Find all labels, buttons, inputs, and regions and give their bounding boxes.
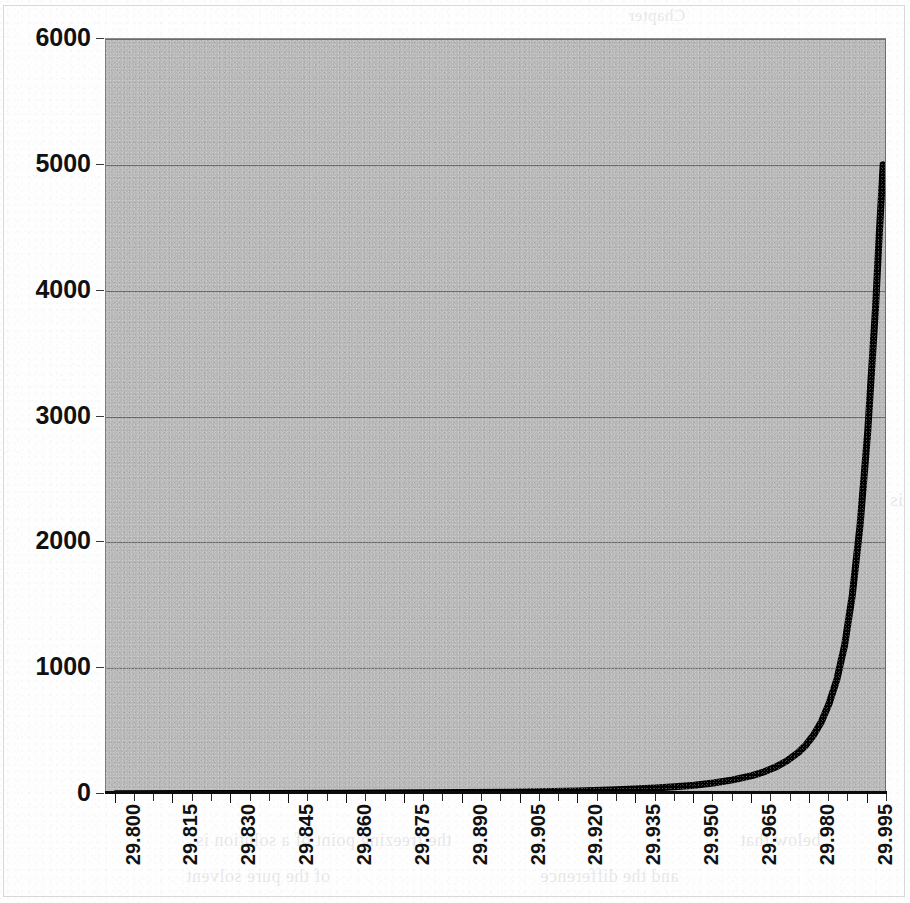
y-axis-tick (96, 541, 104, 542)
y-axis-tick (96, 667, 104, 668)
x-axis-tick-label: 29.800 (123, 804, 143, 865)
x-axis-tick-label: 29.830 (238, 804, 258, 865)
series-curve (106, 39, 886, 793)
y-axis-tick-label: 3000 (0, 403, 91, 428)
x-axis-major-tick (115, 794, 116, 803)
y-axis-tick (96, 793, 104, 794)
y-axis-tick-label: 6000 (0, 25, 91, 50)
x-axis-major-tick (230, 794, 231, 803)
x-axis-minor-tick (365, 794, 366, 801)
x-axis-minor-tick (211, 794, 212, 801)
line-chart: 0100020003000400050006000 29.80029.81529… (0, 0, 910, 903)
y-axis-tick (96, 416, 104, 417)
x-axis-tick-label: 29.815 (180, 804, 200, 865)
y-axis-tick (96, 290, 104, 291)
x-axis-tick-label: 29.890 (470, 804, 490, 865)
x-axis-minor-tick (886, 794, 887, 801)
x-axis-minor-tick (192, 794, 193, 801)
x-axis-major-tick (172, 794, 173, 803)
x-axis-minor-tick (500, 794, 501, 801)
x-axis-major-tick (809, 794, 810, 803)
x-axis-major-tick (520, 794, 521, 803)
x-axis-minor-tick (153, 794, 154, 801)
y-axis-tick-label: 5000 (0, 151, 91, 176)
x-axis-minor-tick (655, 794, 656, 801)
x-axis-minor-tick (481, 794, 482, 801)
x-axis-minor-tick (250, 794, 251, 801)
x-axis-minor-tick (712, 794, 713, 801)
y-axis-tick-label: 0 (0, 780, 91, 805)
x-axis-tick-label: 29.920 (585, 804, 605, 865)
x-axis-tick-label: 29.995 (875, 804, 895, 865)
x-axis-tick-label: 29.950 (701, 804, 721, 865)
y-axis-tick-label: 4000 (0, 277, 91, 302)
x-axis-minor-tick (732, 794, 733, 801)
x-axis-tick-label: 29.875 (412, 804, 432, 865)
x-axis-tick-label: 29.980 (817, 804, 837, 865)
plot-area (105, 38, 886, 793)
x-axis-tick-label: 29.845 (296, 804, 316, 865)
x-axis-major-tick (404, 794, 405, 803)
x-axis-major-tick (346, 794, 347, 803)
x-axis-major-tick (635, 794, 636, 803)
x-axis-minor-tick (442, 794, 443, 801)
x-axis-minor-tick (385, 794, 386, 801)
x-axis-minor-tick (674, 794, 675, 801)
x-axis-major-tick (693, 794, 694, 803)
x-axis-tick-label: 29.860 (354, 804, 374, 865)
x-axis-minor-tick (770, 794, 771, 801)
x-axis-major-tick (462, 794, 463, 803)
x-axis-minor-tick (269, 794, 270, 801)
x-axis-minor-tick (790, 794, 791, 801)
x-axis-major-tick (751, 794, 752, 803)
x-axis-minor-tick (616, 794, 617, 801)
y-axis-tick-label: 1000 (0, 654, 91, 679)
x-axis-minor-tick (539, 794, 540, 801)
x-axis-minor-tick (847, 794, 848, 801)
y-axis-tick-label: 2000 (0, 528, 91, 553)
x-axis-major-tick (288, 794, 289, 803)
y-axis-tick (96, 38, 104, 39)
x-axis-tick-label: 29.905 (528, 804, 548, 865)
x-axis-minor-tick (828, 794, 829, 801)
x-axis-minor-tick (558, 794, 559, 801)
x-axis-minor-tick (134, 794, 135, 801)
x-axis-minor-tick (307, 794, 308, 801)
x-axis-major-tick (577, 794, 578, 803)
x-axis-minor-tick (597, 794, 598, 801)
x-axis-major-tick (867, 794, 868, 803)
x-axis-tick-label: 29.965 (759, 804, 779, 865)
x-axis-minor-tick (327, 794, 328, 801)
x-axis-tick-label: 29.935 (643, 804, 663, 865)
x-axis-minor-tick (423, 794, 424, 801)
y-axis-tick (96, 164, 104, 165)
